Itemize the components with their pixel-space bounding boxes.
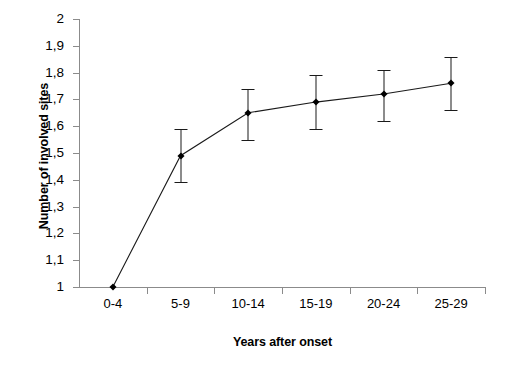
y-axis-tick-label: 1,9 (20, 38, 64, 53)
chart-container: Number of involved sites 21,91,81,71,61,… (0, 0, 523, 374)
x-axis-tick (147, 287, 148, 294)
x-axis-tick (350, 287, 351, 294)
error-bar-cap (174, 129, 187, 130)
error-bar-cap (445, 57, 458, 58)
x-axis-tick (417, 287, 418, 294)
x-axis-category-label: 25-29 (435, 296, 468, 311)
y-axis-tick-label: 1,3 (20, 199, 64, 214)
error-bar-cap (309, 129, 322, 130)
x-axis-category-label: 5-9 (171, 296, 190, 311)
error-bar-cap (445, 110, 458, 111)
plot-area: 21,91,81,71,61,51,41,31,21,11 (79, 19, 485, 287)
y-axis-tick: 1 (73, 287, 79, 288)
y-axis-tick-label: 2 (20, 11, 64, 26)
series-line (79, 19, 485, 287)
y-axis-tick-label: 1,7 (20, 91, 64, 106)
error-bar-cap (174, 182, 187, 183)
y-axis-tick-label: 1,1 (20, 252, 64, 267)
x-axis-title: Years after onset (79, 335, 486, 349)
x-axis-category-label: 20-24 (367, 296, 400, 311)
error-bar-cap (377, 121, 390, 122)
y-axis-tick-label: 1,8 (20, 65, 64, 80)
x-axis-category-label: 10-14 (232, 296, 265, 311)
x-axis-tick (485, 287, 486, 294)
error-bar-cap (309, 75, 322, 76)
x-axis-category-label: 0-4 (103, 296, 122, 311)
y-axis-tick-label: 1,6 (20, 118, 64, 133)
error-bar-cap (242, 140, 255, 141)
error-bar-cap (377, 70, 390, 71)
x-axis-category-label: 15-19 (299, 296, 332, 311)
x-axis-tick (214, 287, 215, 294)
y-axis-tick-label: 1 (20, 279, 64, 294)
error-bar-cap (242, 89, 255, 90)
y-axis-tick-label: 1,5 (20, 145, 64, 160)
x-axis-tick (282, 287, 283, 294)
y-axis-tick-label: 1,2 (20, 225, 64, 240)
y-axis-tick-label: 1,4 (20, 172, 64, 187)
